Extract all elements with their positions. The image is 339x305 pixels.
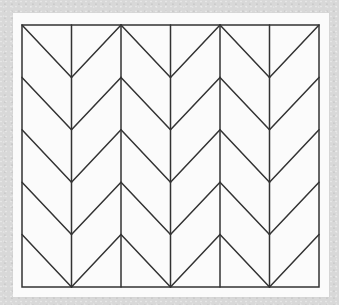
chevron-right-stroke [270,182,320,234]
chevron-left-stroke [121,235,171,287]
chevron-right-stroke [72,130,122,182]
chevron-right-stroke [171,130,221,182]
chevron-left-stroke [121,25,171,77]
chevron-right-stroke [171,25,221,77]
chevron-right-stroke [72,25,122,77]
chevron-left-stroke [22,77,72,129]
chevron-right-stroke [72,77,122,129]
herringbone-pattern [0,0,339,305]
chevron-right-stroke [171,77,221,129]
chevron-left-stroke [22,25,72,77]
chevron-left-stroke [121,77,171,129]
chevron-right-stroke [270,235,320,287]
chevron-left-stroke [22,235,72,287]
chevron-left-stroke [22,130,72,182]
chevron-left-stroke [121,130,171,182]
chevron-right-stroke [270,130,320,182]
chevron-left-stroke [220,235,270,287]
chevron-right-stroke [171,182,221,234]
chevron-right-stroke [72,182,122,234]
chevron-right-stroke [270,25,320,77]
chevron-left-stroke [22,182,72,234]
chevron-left-stroke [220,77,270,129]
chevron-right-stroke [72,235,122,287]
chevron-left-stroke [220,130,270,182]
vertical-lines [72,25,270,287]
chevron-left-stroke [220,182,270,234]
chevron-right-stroke [270,77,320,129]
chevron-left-stroke [220,25,270,77]
chevron-right-stroke [171,235,221,287]
chevron-left-stroke [121,182,171,234]
